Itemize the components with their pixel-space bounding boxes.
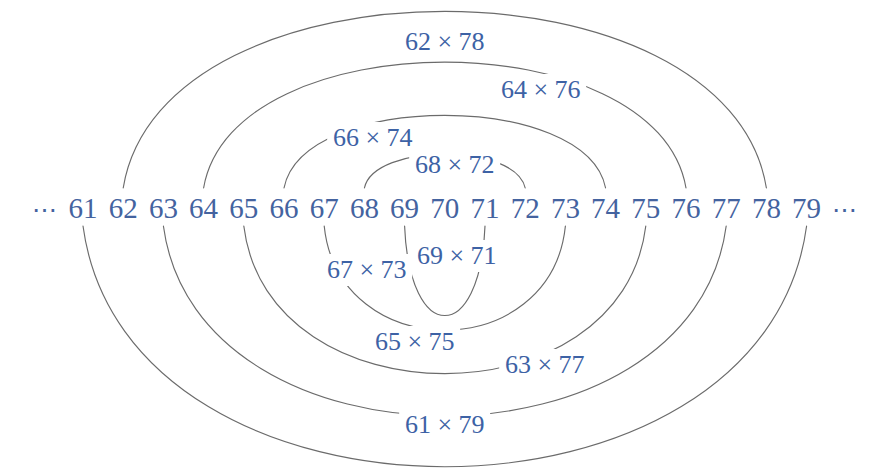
pair-label-63-77: 63 × 77 bbox=[499, 349, 591, 381]
arc-layer bbox=[0, 0, 892, 476]
number-label-75: 75 bbox=[630, 192, 661, 224]
number-label-69: 69 bbox=[389, 192, 420, 224]
pair-label-64-76: 64 × 76 bbox=[495, 74, 587, 106]
number-line: ⋯61626364656667686970717273747576777879⋯ bbox=[0, 192, 892, 232]
number-label-61: 61 bbox=[68, 192, 99, 224]
number-label-72: 72 bbox=[510, 192, 541, 224]
number-label-73: 73 bbox=[550, 192, 581, 224]
number-label-65: 65 bbox=[228, 192, 259, 224]
pair-label-68-72: 68 × 72 bbox=[409, 149, 501, 181]
pair-label-62-78: 62 × 78 bbox=[399, 26, 491, 58]
number-label-78: 78 bbox=[751, 192, 782, 224]
number-label-74: 74 bbox=[590, 192, 621, 224]
left-ellipsis: ⋯ bbox=[30, 195, 61, 225]
pair-label-61-79: 61 × 79 bbox=[399, 409, 491, 441]
pair-label-67-73: 67 × 73 bbox=[321, 254, 413, 286]
number-label-77: 77 bbox=[711, 192, 742, 224]
number-label-63: 63 bbox=[148, 192, 179, 224]
pair-label-66-74: 66 × 74 bbox=[327, 122, 419, 154]
number-label-68: 68 bbox=[349, 192, 380, 224]
pair-label-69-71: 69 × 71 bbox=[411, 240, 503, 272]
number-label-66: 66 bbox=[269, 192, 300, 224]
number-label-64: 64 bbox=[188, 192, 219, 224]
number-label-70: 70 bbox=[429, 192, 460, 224]
number-label-67: 67 bbox=[309, 192, 340, 224]
number-label-62: 62 bbox=[108, 192, 139, 224]
factor-pair-arc-diagram: ⋯61626364656667686970717273747576777879⋯… bbox=[0, 0, 892, 476]
number-label-71: 71 bbox=[470, 192, 501, 224]
number-label-76: 76 bbox=[671, 192, 702, 224]
pair-label-65-75: 65 × 75 bbox=[369, 326, 461, 358]
number-label-79: 79 bbox=[791, 192, 822, 224]
right-ellipsis: ⋯ bbox=[830, 195, 861, 225]
